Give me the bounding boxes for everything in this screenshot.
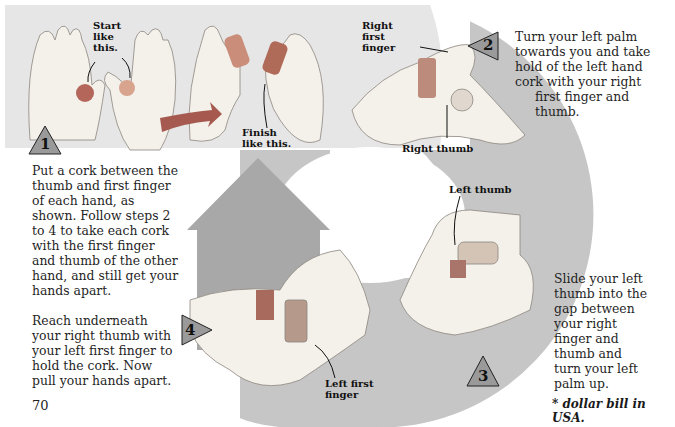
- right-thumb-label: Right thumb: [402, 143, 473, 154]
- step-2-badge: 2: [467, 31, 499, 61]
- page-number: 70: [32, 398, 49, 413]
- step-3-badge: 3: [466, 355, 500, 387]
- step-2-instructions: Turn your left palm towards you and take…: [515, 29, 675, 119]
- left-first-finger-label: Left first finger: [325, 378, 374, 400]
- step-3-instructions: Slide your left thumb into the gap betwe…: [554, 271, 674, 391]
- start-like-this-label: Start like this.: [93, 20, 121, 53]
- step-3-number: 3: [478, 367, 488, 385]
- footnote: * dollar bill in USA.: [552, 397, 675, 425]
- step-1-instructions: Put a cork between the thumb and first f…: [32, 163, 212, 298]
- step-1-badge: 1: [28, 125, 62, 155]
- right-first-finger-label: Right first finger: [362, 20, 395, 53]
- left-thumb-label: Left thumb: [449, 184, 512, 195]
- step-2-number: 2: [483, 36, 493, 54]
- step-1-number: 1: [40, 135, 50, 153]
- finish-like-this-label: Finish like this.: [242, 127, 291, 149]
- step-4-instructions: Reach underneath your right thumb with y…: [32, 313, 212, 388]
